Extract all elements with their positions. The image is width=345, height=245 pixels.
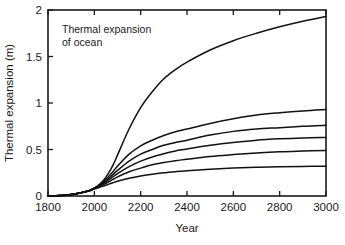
x-tick-label-3000: 3000 [313,201,339,213]
x-axis-title: Year [175,222,198,234]
y-axis-tick-labels: 00.511.52 [26,4,42,202]
annotation-line-2: of ocean [62,36,102,48]
curve-curve-3 [48,125,326,196]
x-tick-label-2200: 2200 [128,201,154,213]
x-tick-label-2000: 2000 [82,201,108,213]
x-tick-label-2800: 2800 [267,201,293,213]
thermal-expansion-chart: 00.511.52 1800200022002400260028003000 Y… [0,0,345,245]
x-tick-label-1800: 1800 [35,201,61,213]
annotation-line-1: Thermal expansion [62,23,151,35]
y-tick-label-1.5: 1.5 [26,51,42,63]
y-tick-label-0.5: 0.5 [26,144,42,156]
y-axis-title: Thermal expansion (m) [3,44,15,162]
chart-canvas: 00.511.52 1800200022002400260028003000 Y… [0,0,345,245]
y-tick-label-2: 2 [36,4,42,16]
x-tick-label-2600: 2600 [221,201,247,213]
curve-curve-5 [48,150,326,196]
x-tick-label-2400: 2400 [174,201,200,213]
y-tick-label-1: 1 [36,97,42,109]
x-axis-tick-labels: 1800200022002400260028003000 [35,201,339,213]
curve-curve-2 [48,110,326,196]
